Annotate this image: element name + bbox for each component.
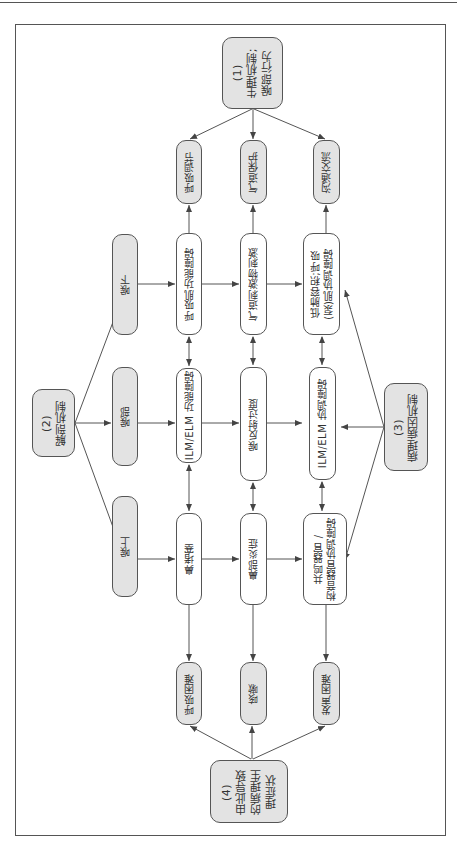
function-respiratory-regulation: 呼吸调节 [176,140,202,204]
mechanism-ilm-elm-incoordination: ILM/ELM 协调障碍 [309,367,336,480]
node-label: 呼吸肌功能障碍 [183,247,196,321]
node-label: 低肺容积;呼吸 (泵)肌协调障碍 [309,248,335,320]
node-label: 共鸣器官 / 构音器官协调障碍 [312,517,338,601]
group-pathological-mechanism: (3) 病理病因机制 [384,383,428,471]
node-label: 喉下 [119,274,132,295]
anatomy-supraglottic: 喉上 [112,496,138,597]
function-communication: 沟通交流 [313,140,340,204]
function-airway-protection: 气道保护 [240,140,267,204]
mechanism-ilm-elm-dysfunction: ILM/ELM 功能障碍 [176,368,202,463]
mechanism-resonator-articulator-incoordination: 共鸣器官 / 构音器官协调障碍 [303,513,347,605]
node-label: 喉反射过度 [247,398,260,451]
mechanism-nasal-obstruction: 鼻堵塞 [176,513,202,605]
node-label: 呼吸困难 [183,673,196,715]
node-label: 气道刺激物刺激 [247,247,260,321]
group-label: (2) 解剖机制 [39,400,69,446]
mechanism-low-lung-volume: 低肺容积;呼吸 (泵)肌协调障碍 [303,233,340,335]
group-resulting-symptoms: (4) 由此导致 的病理生 理症状 [210,760,288,823]
group-anatomical-mechanism: (2) 解剖机制 [32,389,75,457]
node-label: 沟通交流 [320,151,333,193]
node-label: 喉部 [119,406,132,427]
node-label: 咳嗽 [247,683,260,704]
group-label: (4) 由此导致 的病理生 理症状 [219,769,279,815]
node-label: ILM/ELM 协调障碍 [316,378,329,468]
anatomy-larynx: 喉部 [112,367,138,466]
node-label: ILM/ELM 功能障碍 [183,370,196,460]
node-label: 呼吸调节 [183,151,196,193]
node-label: 气道保护 [247,151,260,193]
mechanism-nasal-inflammation: 鼻部炎症 [240,513,267,605]
node-label: 鼻堵塞 [183,543,196,575]
mechanism-respiratory-muscle-dysfunction: 呼吸肌功能障碍 [176,233,202,335]
group-label: (1) 生理机制; 喉部行为 [230,48,275,98]
node-label: 喉上 [119,536,132,557]
symptom-dyspnea: 呼吸困难 [176,662,202,725]
mechanism-laryngeal-hyperreflex: 喉反射过度 [240,367,267,481]
node-label: 发声困难 [320,673,333,715]
anatomy-subglottic: 喉下 [112,234,138,335]
mechanism-airway-irritant: 气道刺激物刺激 [240,233,267,335]
group-physiological-mechanism: (1) 生理机制; 喉部行为 [222,37,283,109]
group-label: (3) 病理病因机制 [391,393,421,462]
symptom-dysphonia: 发声困难 [313,662,340,725]
node-label: 鼻部炎症 [247,538,260,580]
symptom-cough: 咳嗽 [240,662,267,725]
